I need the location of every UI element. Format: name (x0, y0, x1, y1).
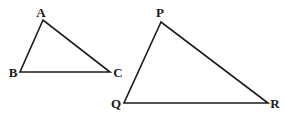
triangles-svg: A B C P Q R (0, 0, 284, 124)
vertex-label-q: Q (111, 96, 121, 111)
vertex-label-b: B (9, 65, 18, 80)
triangle-pqr: P Q R (111, 5, 280, 111)
triangle-abc-shape (20, 20, 110, 72)
triangle-abc: A B C (9, 5, 123, 80)
vertex-label-a: A (36, 5, 46, 20)
vertex-label-r: R (270, 96, 280, 111)
vertex-label-c: C (113, 65, 122, 80)
vertex-label-p: P (156, 5, 164, 20)
diagram-canvas: A B C P Q R (0, 0, 284, 124)
triangle-pqr-shape (124, 22, 268, 103)
